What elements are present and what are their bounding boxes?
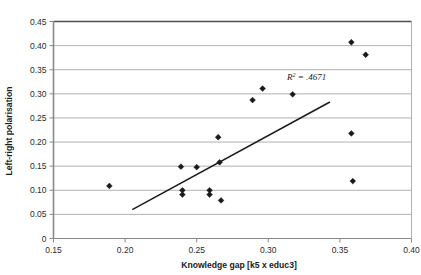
- chart-svg: 00.050.100.150.200.250.300.350.400.45 0.…: [0, 0, 421, 275]
- data-point-marker: [290, 91, 296, 97]
- data-point-marker: [363, 52, 369, 58]
- r-squared-annotation: R2 = .4671: [286, 72, 326, 83]
- data-point-marker: [250, 97, 256, 103]
- data-point-marker: [218, 198, 224, 204]
- data-point-marker: [106, 183, 112, 189]
- annotation-text: R2 = .4671: [286, 72, 326, 83]
- y-tick-label: 0.35: [30, 65, 47, 75]
- y-axis-tick-labels: 00.050.100.150.200.250.300.350.400.45: [30, 17, 47, 244]
- y-axis-title: Left-right polarisation: [4, 87, 14, 176]
- data-points: [106, 39, 368, 203]
- y-tick-label: 0.40: [30, 41, 47, 51]
- data-point-marker: [348, 130, 354, 136]
- data-point-marker: [260, 86, 266, 92]
- data-point-marker: [178, 164, 184, 170]
- x-axis-title: Knowledge gap [k5 x educ3]: [181, 260, 297, 270]
- x-axis-tick-labels: 0.150.200.250.300.350.40: [45, 245, 420, 255]
- data-point-marker: [350, 178, 356, 184]
- x-tick-label: 0.35: [332, 245, 349, 255]
- scatter-chart: 00.050.100.150.200.250.300.350.400.45 0.…: [0, 0, 421, 275]
- x-tick-label: 0.15: [45, 245, 62, 255]
- x-axis-ticks: [54, 239, 412, 243]
- plot-frame: [54, 22, 412, 239]
- x-tick-label: 0.40: [403, 245, 420, 255]
- y-tick-label: 0.05: [30, 209, 47, 219]
- x-tick-label: 0.30: [260, 245, 277, 255]
- data-point-marker: [348, 39, 354, 45]
- x-tick-label: 0.20: [117, 245, 134, 255]
- data-point-marker: [215, 134, 221, 140]
- data-point-marker: [194, 164, 200, 170]
- data-point-marker: [207, 192, 213, 198]
- y-tick-label: 0.25: [30, 113, 47, 123]
- y-tick-label: 0: [42, 234, 47, 244]
- y-tick-label: 0.45: [30, 17, 47, 27]
- y-tick-label: 0.30: [30, 89, 47, 99]
- data-point-marker: [179, 192, 185, 198]
- y-tick-label: 0.10: [30, 185, 47, 195]
- grid-lines: [54, 46, 412, 215]
- y-tick-label: 0.15: [30, 161, 47, 171]
- annotation-value: = .4671: [295, 72, 326, 82]
- x-tick-label: 0.25: [188, 245, 205, 255]
- y-tick-label: 0.20: [30, 137, 47, 147]
